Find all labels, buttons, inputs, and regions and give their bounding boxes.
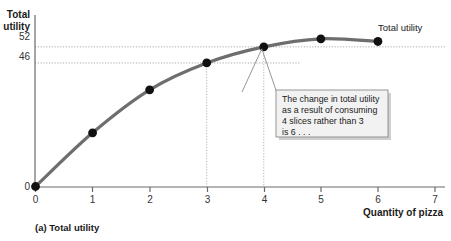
x-tick-marks <box>36 187 436 192</box>
data-point <box>145 85 154 94</box>
callout-leader-line-secondary <box>242 49 262 92</box>
callout-line-1: The change in total utility <box>282 94 380 104</box>
x-axis-title: Quantity of pizza <box>363 207 443 218</box>
callout-line-2: as a result of consuming <box>282 105 377 115</box>
y-tick-label-0: 0 <box>24 181 30 192</box>
data-point <box>316 34 325 43</box>
x-tick-label-0: 0 <box>33 194 39 205</box>
x-tick-label-3: 3 <box>205 194 211 205</box>
x-tick-label-1: 1 <box>90 194 96 205</box>
x-tick-label-4: 4 <box>262 194 268 205</box>
y-tick-label-52: 52 <box>19 31 31 42</box>
x-tick-label-2: 2 <box>147 194 153 205</box>
figure-total-utility: Total utility 52 46 0 0 1 2 3 4 5 6 7 Qu… <box>0 0 451 241</box>
x-tick-label-7: 7 <box>432 194 438 205</box>
data-point <box>259 42 268 51</box>
figure-caption: (a) Total utility <box>35 222 100 233</box>
y-tick-label-46: 46 <box>19 51 31 62</box>
total-utility-chart: Total utility 52 46 0 0 1 2 3 4 5 6 7 Qu… <box>0 0 451 241</box>
data-point <box>374 37 383 46</box>
data-point <box>202 59 211 68</box>
callout-line-3: 4 slices rather than 3 <box>282 116 364 126</box>
callout-line-4: is 6 . . . <box>282 127 310 137</box>
data-point <box>88 128 97 137</box>
x-tick-label-5: 5 <box>318 194 324 205</box>
series-label-total-utility: Total utility <box>378 22 423 33</box>
x-tick-label-6: 6 <box>375 194 381 205</box>
data-point <box>31 182 40 191</box>
y-axis-title-line1: Total <box>7 9 30 20</box>
